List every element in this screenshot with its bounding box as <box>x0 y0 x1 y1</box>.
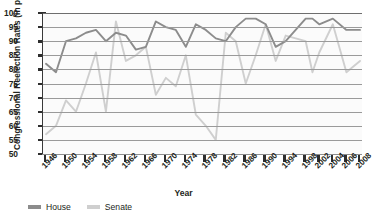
legend-entry-house[interactable]: House <box>28 202 71 212</box>
gridline-80 <box>43 69 362 70</box>
y-tick-label-55: 55 <box>0 135 18 145</box>
y-tick-label-95: 95 <box>0 22 18 32</box>
y-tick-label-85: 85 <box>0 50 18 60</box>
legend-label-senate: Senate <box>105 202 132 212</box>
y-tick-label-100: 100 <box>0 8 18 18</box>
legend-swatch-senate <box>87 205 100 208</box>
gridline-90 <box>43 41 362 42</box>
x-axis-title: Year <box>0 188 367 198</box>
y-tick-label-65: 65 <box>0 107 18 117</box>
y-tick-label-75: 75 <box>0 79 18 89</box>
legend-swatch-house <box>28 205 41 208</box>
y-tick-label-80: 80 <box>0 64 18 74</box>
gridline-85 <box>43 55 362 56</box>
chart-legend: HouseSenate <box>28 202 132 212</box>
y-tick-label-50: 50 <box>0 149 18 159</box>
legend-entry-senate[interactable]: Senate <box>87 202 132 212</box>
y-tick-label-90: 90 <box>0 36 18 46</box>
gridline-95 <box>43 27 362 28</box>
gridlines <box>43 13 362 154</box>
gridline-70 <box>43 98 362 99</box>
gridline-75 <box>43 84 362 85</box>
gridline-55 <box>43 140 362 141</box>
plot-area <box>42 13 362 154</box>
gridline-60 <box>43 126 362 127</box>
gridline-65 <box>43 112 362 113</box>
legend-label-house: House <box>46 202 71 212</box>
gridline-100 <box>43 13 362 14</box>
y-tick-label-60: 60 <box>0 121 18 131</box>
y-tick-label-70: 70 <box>0 93 18 103</box>
